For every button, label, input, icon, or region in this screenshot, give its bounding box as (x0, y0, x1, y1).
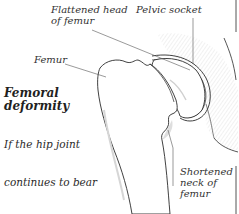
caption-line: If the hip joint (4, 138, 124, 151)
label-femur: Femur (34, 54, 67, 65)
caption-line: continues to bear (4, 176, 124, 189)
label-flattened-head: Flattened head of femur (51, 4, 128, 26)
caption-title-line2: deformity (4, 100, 69, 113)
label-shortened-neck-line1: Shortened (180, 166, 233, 177)
label-shortened-neck-line2: neck of (180, 177, 233, 188)
leader-shortened-neck-stem (168, 130, 173, 148)
caption-body: If the hip joint continues to bear a chi… (4, 113, 124, 214)
label-flattened-head-line1: Flattened head (51, 4, 128, 15)
label-pelvic-socket: Pelvic socket (136, 4, 202, 15)
label-flattened-head-line2: of femur (51, 15, 128, 26)
caption-title: Femoral deformity (4, 87, 69, 113)
label-shortened-neck: Shortened neck of femur (180, 166, 233, 199)
label-shortened-neck-line3: femur (180, 188, 233, 199)
